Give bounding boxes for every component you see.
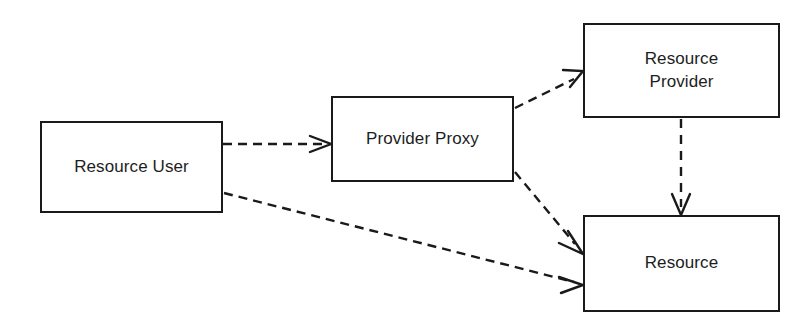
- node-resource-provider[interactable]: Resource Provider: [583, 23, 780, 118]
- edge-line: [515, 79, 574, 108]
- node-resource-user-label: Resource User: [74, 156, 189, 178]
- node-resource-label: Resource: [645, 252, 719, 274]
- arrowhead: [559, 231, 583, 254]
- edge-provider-to-resource: [672, 119, 690, 215]
- edge-proxy-to-provider: [515, 70, 583, 108]
- diagram-canvas: Resource User Provider Proxy Resource Pr…: [0, 0, 804, 327]
- arrowhead: [559, 277, 583, 293]
- edge-user-to-resource: [224, 193, 583, 293]
- node-resource-provider-label: Resource Provider: [645, 48, 719, 92]
- edge-user-to-proxy: [223, 136, 331, 152]
- edge-proxy-to-resource: [515, 172, 583, 254]
- node-resource-user[interactable]: Resource User: [40, 121, 223, 213]
- node-provider-proxy[interactable]: Provider Proxy: [331, 96, 514, 182]
- edge-line: [515, 172, 575, 244]
- node-provider-proxy-label: Provider Proxy: [366, 128, 479, 150]
- edge-line: [224, 193, 574, 282]
- node-resource[interactable]: Resource: [583, 215, 780, 312]
